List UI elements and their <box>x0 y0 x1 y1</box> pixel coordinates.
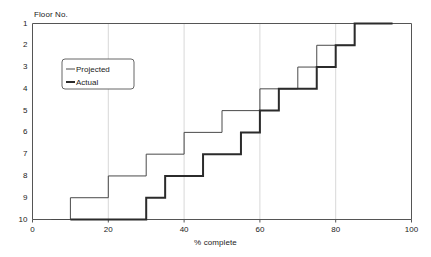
y-tick-label-10: 10 <box>10 215 28 224</box>
legend-box: ProjectedActual <box>62 59 134 89</box>
x-axis-title: % complete <box>0 238 431 247</box>
x-tick-label-0: 0 <box>21 225 45 234</box>
step-chart: Floor No. ProjectedActual 12345678910 02… <box>0 0 431 257</box>
y-tick-label-5: 5 <box>10 106 28 115</box>
y-tick-label-6: 6 <box>10 127 28 136</box>
series-line-actual <box>70 24 392 220</box>
y-tick-label-2: 2 <box>10 40 28 49</box>
y-tick-label-9: 9 <box>10 193 28 202</box>
legend-label-projected: Projected <box>76 65 110 74</box>
y-tick-label-7: 7 <box>10 149 28 158</box>
series-line-projected <box>51 24 392 220</box>
x-tick-label-40: 40 <box>172 225 196 234</box>
y-tick-label-4: 4 <box>10 84 28 93</box>
y-tick-label-1: 1 <box>10 19 28 28</box>
y-tick-label-8: 8 <box>10 171 28 180</box>
x-tick-label-60: 60 <box>248 225 272 234</box>
plot-area: ProjectedActual <box>0 0 431 257</box>
x-tick-label-100: 100 <box>400 225 424 234</box>
series-lines <box>51 24 392 220</box>
legend-label-actual: Actual <box>76 78 98 87</box>
x-tick-label-20: 20 <box>96 225 120 234</box>
x-tick-label-80: 80 <box>324 225 348 234</box>
y-tick-label-3: 3 <box>10 62 28 71</box>
